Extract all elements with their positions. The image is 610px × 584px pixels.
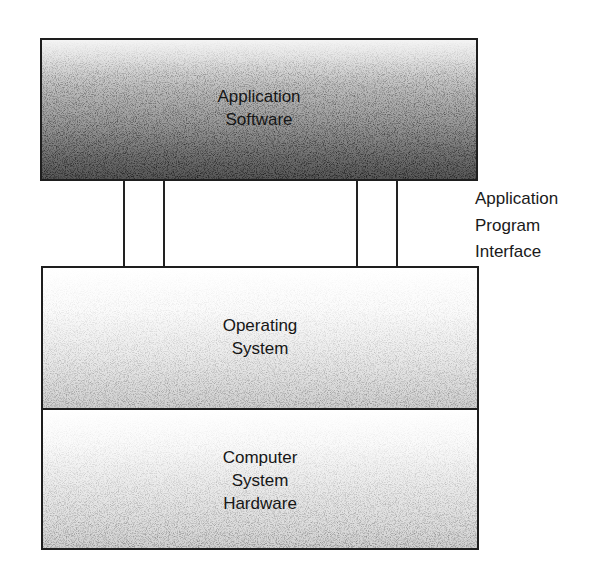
label-line: Operating <box>223 314 298 337</box>
api-connector-line <box>123 180 125 267</box>
computer-system-hardware-layer: Computer System Hardware <box>41 408 479 550</box>
operating-system-layer: Operating System <box>41 266 479 410</box>
label-line: Hardware <box>223 492 298 515</box>
label-line: Interface <box>475 239 558 266</box>
operating-system-label: Operating System <box>223 314 298 360</box>
label-line: Application <box>475 186 558 213</box>
label-line: Application <box>217 85 300 108</box>
label-line: System <box>223 337 298 360</box>
label-line: Computer <box>223 446 298 469</box>
api-connector-line <box>163 180 165 267</box>
application-software-layer: Application Software <box>40 38 478 181</box>
label-line: Software <box>217 108 300 131</box>
api-connector-line <box>356 180 358 267</box>
label-line: Program <box>475 213 558 240</box>
label-line: System <box>223 469 298 492</box>
application-software-label: Application Software <box>217 85 300 131</box>
api-label: Application Program Interface <box>475 186 558 266</box>
api-connector-line <box>396 180 398 267</box>
computer-system-hardware-label: Computer System Hardware <box>223 446 298 515</box>
